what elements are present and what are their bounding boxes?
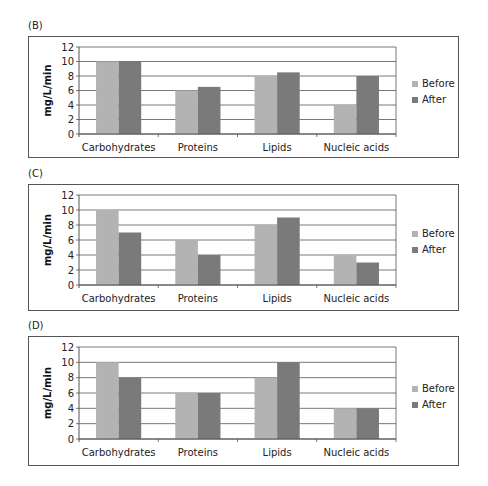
bar-after-1 — [198, 87, 221, 134]
x-tick-label: Carbohydrates — [82, 447, 156, 458]
bar-chart-c: 024681012CarbohydratesProteinsLipidsNucl… — [29, 185, 460, 312]
y-tick-label: 4 — [68, 403, 74, 414]
y-tick-label: 10 — [61, 205, 74, 216]
y-tick-label: 2 — [68, 418, 74, 429]
x-tick-label: Carbohydrates — [82, 142, 156, 153]
panel-label-d: (D) — [28, 320, 44, 331]
legend-swatch-before — [412, 386, 418, 392]
y-tick-label: 0 — [68, 129, 74, 140]
y-tick-label: 0 — [68, 280, 74, 291]
bar-after-0 — [119, 233, 142, 286]
chart-frame-c: 024681012CarbohydratesProteinsLipidsNucl… — [28, 184, 459, 311]
y-axis-label: mg/L/min — [42, 367, 53, 419]
bar-after-2 — [277, 72, 300, 134]
bar-before-1 — [175, 240, 198, 285]
bar-after-1 — [198, 255, 221, 285]
y-tick-label: 4 — [68, 100, 74, 111]
y-tick-label: 4 — [68, 250, 74, 261]
x-tick-label: Proteins — [178, 142, 218, 153]
bar-before-2 — [255, 225, 278, 285]
legend-swatch-before — [412, 81, 418, 87]
y-axis-label: mg/L/min — [42, 214, 53, 266]
y-tick-label: 2 — [68, 265, 74, 276]
x-tick-label: Nucleic acids — [324, 142, 390, 153]
bar-before-2 — [255, 76, 278, 134]
bar-before-3 — [334, 408, 357, 439]
bar-before-3 — [334, 255, 357, 285]
legend-label-before: Before — [422, 228, 455, 239]
legend-swatch-before — [412, 231, 418, 237]
y-tick-label: 0 — [68, 434, 74, 445]
bar-before-0 — [96, 62, 119, 135]
legend-swatch-after — [412, 247, 418, 253]
legend-swatch-after — [412, 402, 418, 408]
bar-chart-d: 024681012CarbohydratesProteinsLipidsNucl… — [29, 337, 460, 467]
bar-after-2 — [277, 362, 300, 439]
bar-after-3 — [356, 408, 379, 439]
x-tick-label: Lipids — [263, 293, 292, 304]
bar-after-1 — [198, 393, 221, 439]
bar-before-1 — [175, 393, 198, 439]
bar-before-2 — [255, 378, 278, 439]
chart-frame-d: 024681012CarbohydratesProteinsLipidsNucl… — [28, 336, 459, 466]
bar-after-3 — [356, 76, 379, 134]
x-tick-label: Nucleic acids — [324, 447, 390, 458]
bar-after-2 — [277, 218, 300, 286]
y-tick-label: 8 — [68, 372, 74, 383]
y-tick-label: 6 — [68, 85, 74, 96]
bar-before-0 — [96, 362, 119, 439]
legend-label-before: Before — [422, 383, 455, 394]
legend-label-after: After — [422, 399, 447, 410]
y-axis-label: mg/L/min — [42, 64, 53, 116]
y-tick-label: 6 — [68, 388, 74, 399]
bar-after-0 — [119, 62, 142, 135]
legend-label-before: Before — [422, 78, 455, 89]
legend-swatch-after — [412, 97, 418, 103]
bar-after-3 — [356, 263, 379, 286]
bar-before-3 — [334, 105, 357, 134]
bar-before-0 — [96, 210, 119, 285]
x-tick-label: Proteins — [178, 447, 218, 458]
x-tick-label: Carbohydrates — [82, 293, 156, 304]
x-tick-label: Lipids — [263, 142, 292, 153]
bar-before-1 — [175, 91, 198, 135]
y-tick-label: 2 — [68, 114, 74, 125]
x-tick-label: Proteins — [178, 293, 218, 304]
bar-chart-b: 024681012CarbohydratesProteinsLipidsNucl… — [29, 37, 460, 159]
y-tick-label: 10 — [61, 357, 74, 368]
legend-label-after: After — [422, 94, 447, 105]
panel-label-c: (C) — [28, 168, 43, 179]
y-tick-label: 10 — [61, 56, 74, 67]
panel-label-b: (B) — [28, 20, 43, 31]
chart-frame-b: 024681012CarbohydratesProteinsLipidsNucl… — [28, 36, 459, 158]
x-tick-label: Nucleic acids — [324, 293, 390, 304]
y-tick-label: 8 — [68, 220, 74, 231]
y-tick-label: 12 — [61, 190, 74, 201]
y-tick-label: 12 — [61, 342, 74, 353]
bar-after-0 — [119, 378, 142, 439]
y-tick-label: 12 — [61, 42, 74, 53]
legend-label-after: After — [422, 244, 447, 255]
x-tick-label: Lipids — [263, 447, 292, 458]
y-tick-label: 8 — [68, 71, 74, 82]
y-tick-label: 6 — [68, 235, 74, 246]
